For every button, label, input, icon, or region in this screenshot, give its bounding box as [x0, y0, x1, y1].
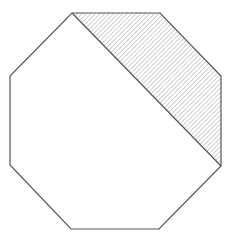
octagon-diagram — [0, 0, 238, 239]
octagon-figure — [0, 0, 238, 239]
